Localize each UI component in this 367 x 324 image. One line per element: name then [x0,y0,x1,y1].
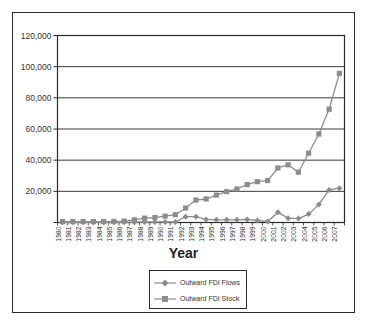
diamond-marker [336,185,342,191]
x-tick-label: 1993 [188,226,195,241]
x-tick-label: 1994 [198,226,205,241]
square-marker [142,216,147,221]
diamond-marker [193,214,199,220]
x-tick-label: 2001 [270,226,277,241]
square-marker [183,205,188,210]
diamond-marker [295,216,301,222]
y-tick-label: 120,000 [21,31,52,41]
x-tick-label: 1981 [65,226,72,241]
legend-label-stock: Outward FDI Stock [180,295,239,302]
square-marker [245,182,250,187]
square-marker [337,71,342,76]
x-tick-label: 1991 [167,226,174,241]
square-marker [163,214,168,219]
x-tick-label: 2004 [301,226,308,241]
gridlines [58,67,345,192]
x-tick-label: 2000 [260,226,267,241]
square-marker [286,162,291,167]
square-marker [101,219,106,224]
square-marker [306,151,311,156]
square-marker [193,197,198,202]
square-marker [173,212,178,217]
x-tick-label: 2002 [280,226,287,241]
square-marker [234,186,239,191]
square-marker [224,189,229,194]
y-tick-label: 40,000 [26,155,52,165]
diamond-marker-icon [154,278,176,288]
diamond-marker [162,219,168,225]
x-tick-label: 2007 [331,226,338,241]
square-marker [255,179,260,184]
legend-item-flows: Outward FDI Flows [154,276,240,289]
y-tick-label: 20,000 [26,186,52,196]
diamond-marker [172,219,178,225]
diamond-marker [183,214,189,220]
x-axis-title: Year [0,245,367,261]
square-marker [152,215,157,220]
x-tick-label: 1997 [229,226,236,241]
x-tick-label: 1998 [239,226,246,241]
x-tick-label: 1986 [116,226,123,241]
x-tick-label: 1980 [55,226,62,241]
square-marker [214,192,219,197]
legend: Outward FDI Flows Outward FDI Stock [149,270,247,309]
x-tick-label: 2003 [290,226,297,241]
x-tick-label: 1987 [126,226,133,241]
x-tick-label: 1995 [208,226,215,241]
x-tick-label: 1989 [147,226,154,241]
y-tick-label: 80,000 [26,93,52,103]
series-line [63,73,340,221]
square-marker [316,131,321,136]
y-tick-label: 60,000 [26,124,52,134]
square-marker [111,219,116,224]
legend-item-stock: Outward FDI Stock [154,292,239,305]
legend-label-flows: Outward FDI Flows [180,279,240,286]
square-marker [70,219,75,224]
x-tick-label: 1985 [106,226,113,241]
square-marker [60,219,65,224]
data-series [60,71,343,226]
x-tick-label: 1990 [157,226,164,241]
x-tick-label: 1992 [178,226,185,241]
x-tick-label: 1983 [85,226,92,241]
square-marker [132,217,137,222]
x-tick-label: 1988 [137,226,144,241]
x-axis-ticks: 1980198119821983198419851986198719881989… [55,223,345,242]
square-marker [275,165,280,170]
y-axis-ticks: 20,00040,00060,00080,000100,000120,000 [21,31,58,223]
square-marker [91,219,96,224]
x-tick-label: 1999 [249,226,256,241]
x-tick-label: 1982 [75,226,82,241]
square-marker-icon [154,294,176,304]
x-tick-label: 2006 [321,226,328,241]
square-marker [204,196,209,201]
x-tick-label: 2005 [311,226,318,241]
diamond-marker [285,215,291,221]
square-marker [296,170,301,175]
square-marker [81,219,86,224]
square-marker [327,107,332,112]
square-marker [265,178,270,183]
x-tick-label: 1984 [96,226,103,241]
square-marker [122,218,127,223]
diamond-marker [244,216,250,222]
y-tick-label: 100,000 [21,62,52,72]
x-tick-label: 1996 [219,226,226,241]
diamond-marker [203,216,209,222]
